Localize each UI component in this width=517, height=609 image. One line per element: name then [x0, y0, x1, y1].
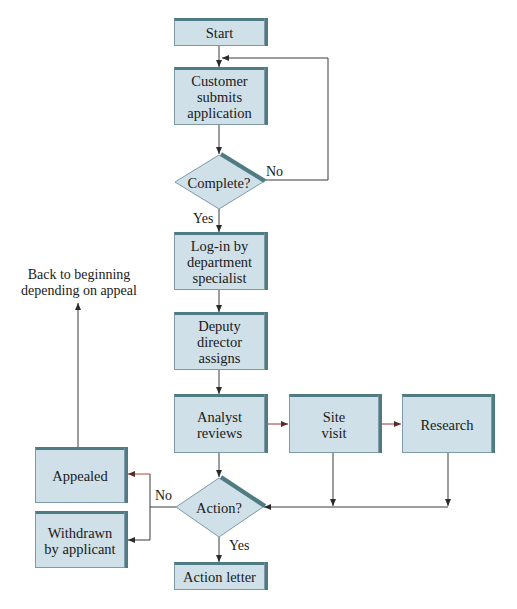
complete-decision-label: Complete? [188, 175, 251, 192]
analyst-reviews-node: Analyst reviews [174, 394, 265, 453]
start-node: Start [174, 18, 265, 46]
action-no-label: No [155, 488, 172, 504]
complete-yes-label: Yes [193, 211, 213, 227]
customer-submits-node: Customer submits application [174, 67, 265, 125]
research-node: Research [402, 394, 492, 453]
withdrawn-node: Withdrawn by applicant [35, 511, 125, 568]
action-decision-label: Action? [196, 500, 242, 517]
action-yes-label: Yes [229, 538, 249, 554]
complete-no-label: No [266, 164, 283, 180]
login-node: Log-in by department specialist [174, 232, 265, 290]
site-visit-node: Site visit [289, 394, 379, 453]
back-to-beginning-note: Back to beginning depending on appeal [4, 267, 154, 299]
appealed-node: Appealed [35, 447, 125, 503]
action-letter-node: Action letter [174, 562, 265, 590]
deputy-director-node: Deputy director assigns [174, 312, 265, 370]
